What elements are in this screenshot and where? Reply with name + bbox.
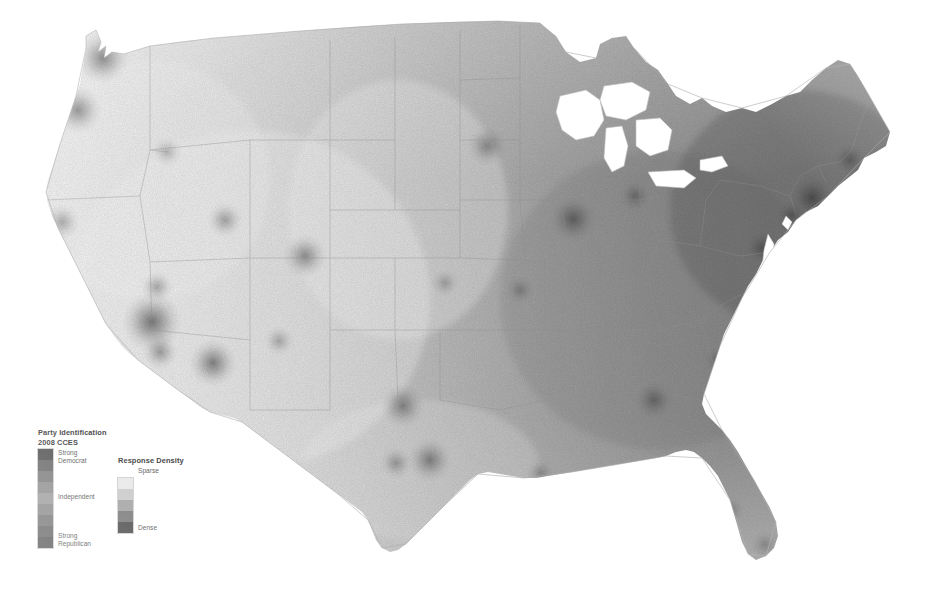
party-legend-subtitle: 2008 CCES: [38, 438, 128, 448]
density-swatch-2: [118, 500, 133, 511]
party-color-ramp: [38, 449, 53, 548]
party-legend-title: Party Identification: [38, 428, 128, 438]
density-swatch-0: [118, 478, 133, 489]
density-label-sparse: Sparse: [138, 467, 159, 475]
party-swatch-6: [38, 515, 53, 526]
density-swatch-3: [118, 511, 133, 522]
party-label-strong-democrat: Strong Democrat: [58, 449, 87, 464]
party-label-strong-republican: Strong Republican: [58, 532, 91, 547]
response-density-legend: Response Density Sparse Dense: [118, 456, 218, 533]
party-swatch-3: [38, 482, 53, 493]
density-color-ramp: [118, 478, 133, 533]
party-swatch-1: [38, 460, 53, 471]
party-swatch-7: [38, 526, 53, 537]
density-ramp-wrap: Sparse Dense: [118, 478, 218, 533]
party-identification-legend: Party Identification 2008 CCES Strong De…: [38, 428, 128, 548]
party-ramp-wrap: Strong Democrat Independent Strong Repub…: [38, 449, 128, 548]
density-swatch-4: [118, 522, 133, 533]
density-legend-title: Response Density: [118, 456, 218, 466]
density-swatch-1: [118, 489, 133, 500]
party-swatch-5: [38, 504, 53, 515]
figure-root: Party Identification 2008 CCES Strong De…: [0, 0, 935, 599]
party-swatch-4: [38, 493, 53, 504]
party-swatch-0: [38, 449, 53, 460]
party-swatch-8: [38, 537, 53, 548]
party-swatch-2: [38, 471, 53, 482]
density-label-dense: Dense: [138, 524, 157, 532]
party-label-independent: Independent: [58, 493, 95, 501]
